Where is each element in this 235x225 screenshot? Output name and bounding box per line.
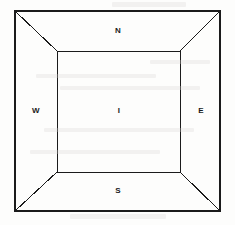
label-south: S bbox=[115, 187, 121, 195]
label-west: W bbox=[32, 107, 40, 115]
label-east: E bbox=[198, 107, 204, 115]
label-north: N bbox=[115, 27, 121, 35]
room-perspective-figure: NWIES bbox=[0, 0, 235, 225]
label-interior: I bbox=[118, 107, 120, 115]
